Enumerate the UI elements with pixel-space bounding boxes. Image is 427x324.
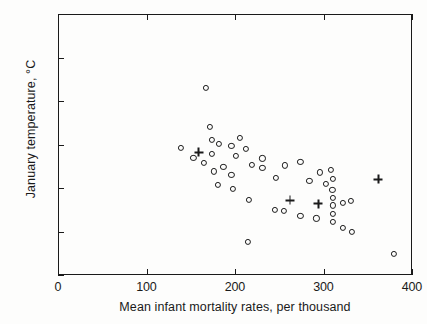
data-point-plus [285, 196, 294, 205]
x-tick-mark [324, 269, 325, 275]
x-tick-mark-top [235, 14, 236, 20]
y-tick-mark [58, 14, 64, 15]
data-point-plus [374, 175, 383, 184]
y-tick-mark [58, 145, 64, 146]
y-tick-mark [58, 232, 64, 233]
x-tick-label: 0 [34, 280, 82, 294]
y-tick-mark [58, 101, 64, 102]
data-point-plus [194, 148, 203, 157]
x-tick-mark [147, 269, 148, 275]
x-tick-mark-top [412, 14, 413, 20]
y-axis-title: January temperature, °C [24, 19, 38, 239]
x-tick-label: 400 [388, 280, 427, 294]
x-tick-mark-top [324, 14, 325, 20]
plot-frame [58, 14, 412, 275]
x-tick-label: 300 [300, 280, 348, 294]
x-tick-mark-top [147, 14, 148, 20]
y-tick-mark [58, 275, 64, 276]
x-tick-label: 200 [211, 280, 259, 294]
x-axis-title: Mean infant mortality rates, per thousan… [58, 300, 412, 314]
x-tick-label: 100 [123, 280, 171, 294]
x-tick-mark [235, 269, 236, 275]
x-tick-mark [412, 269, 413, 275]
y-tick-mark [58, 188, 64, 189]
scatter-plot-figure: January temperature, °C Mean infant mort… [0, 0, 427, 324]
data-point-plus [314, 199, 323, 208]
y-tick-mark [58, 58, 64, 59]
